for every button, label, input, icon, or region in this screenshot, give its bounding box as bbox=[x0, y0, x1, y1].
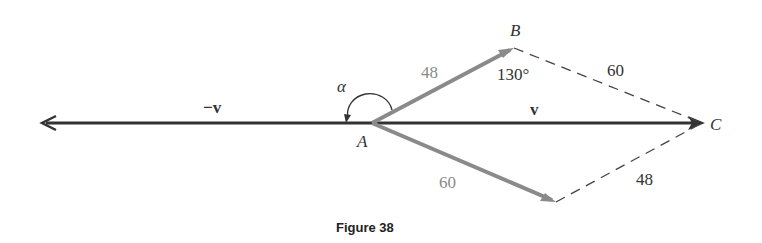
vector-ad bbox=[372, 123, 552, 200]
point-a-label: A bbox=[356, 132, 368, 151]
figure-caption: Figure 38 bbox=[336, 220, 394, 235]
dashed-dc bbox=[556, 123, 702, 202]
dashed-bc bbox=[514, 48, 702, 123]
point-c-label: C bbox=[710, 115, 722, 134]
length-dc-label: 48 bbox=[636, 170, 653, 189]
point-b-label: B bbox=[510, 21, 521, 40]
alpha-label: α bbox=[337, 77, 347, 96]
vector-ab bbox=[372, 50, 510, 123]
length-ab-label: 48 bbox=[421, 63, 438, 82]
vector-diagram: α A B C 48 130° 60 60 48 −v v Figure 38 bbox=[0, 0, 762, 243]
v-label: v bbox=[530, 100, 539, 119]
angle-b-label: 130° bbox=[497, 65, 529, 84]
length-ad-label: 60 bbox=[439, 173, 456, 192]
neg-v-label: −v bbox=[203, 98, 222, 117]
length-bc-label: 60 bbox=[607, 61, 624, 80]
